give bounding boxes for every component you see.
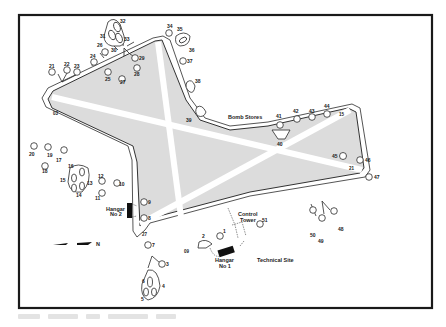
airfield-map: 03 21 15 27 09: [0, 0, 446, 327]
svg-text:9: 9: [148, 199, 151, 205]
svg-text:51: 51: [262, 217, 268, 223]
hangar-no-1: [217, 246, 234, 258]
svg-text:14: 14: [76, 192, 82, 198]
hangar-no-2: [127, 203, 132, 218]
svg-text:32: 32: [120, 18, 126, 24]
svg-text:4: 4: [162, 283, 165, 289]
svg-text:12: 12: [98, 173, 104, 179]
svg-text:2: 2: [202, 233, 205, 239]
svg-text:10: 10: [119, 181, 125, 187]
svg-text:22: 22: [64, 61, 70, 67]
svg-text:29: 29: [139, 55, 145, 61]
svg-text:48: 48: [338, 226, 344, 232]
svg-text:1: 1: [223, 228, 226, 234]
svg-text:45: 45: [332, 153, 338, 159]
runway-end-09: 09: [184, 249, 190, 254]
svg-text:40: 40: [277, 141, 283, 147]
svg-text:43: 43: [309, 108, 315, 114]
runway-end-27: 27: [142, 232, 148, 237]
north-arrow-label: N: [96, 241, 100, 247]
figure-caption-illegible: [18, 314, 176, 320]
north-arrow-icon: N: [53, 241, 100, 247]
svg-text:38: 38: [195, 78, 201, 84]
dispersal-group-south-east: [257, 201, 338, 227]
svg-text:11: 11: [95, 195, 101, 201]
hangar-no-1-label-2: No 1: [219, 263, 231, 269]
control-tower-label-2: Tower: [240, 217, 257, 223]
svg-text:23: 23: [74, 63, 80, 69]
svg-text:7: 7: [152, 242, 155, 248]
technical-site-label: Technical Site: [257, 257, 294, 263]
svg-text:42: 42: [293, 108, 299, 114]
svg-text:35: 35: [177, 26, 183, 32]
svg-text:47: 47: [374, 174, 380, 180]
svg-text:46: 46: [365, 157, 371, 163]
svg-text:26: 26: [97, 42, 103, 48]
runway-end-15: 15: [339, 112, 345, 117]
svg-text:34: 34: [167, 23, 173, 29]
bomb-stores-label: Bomb Stores: [228, 114, 262, 120]
dispersal-group-west: [31, 143, 152, 249]
svg-text:17: 17: [56, 157, 62, 163]
runway-end-03: 03: [53, 111, 59, 116]
svg-text:5: 5: [141, 296, 144, 302]
svg-text:19: 19: [47, 152, 53, 158]
svg-text:31: 31: [100, 33, 106, 39]
svg-text:25: 25: [105, 76, 111, 82]
svg-text:3: 3: [166, 261, 169, 267]
svg-text:49: 49: [318, 238, 324, 244]
svg-text:21: 21: [49, 63, 55, 69]
svg-text:28: 28: [134, 71, 140, 77]
svg-text:30: 30: [111, 47, 117, 53]
svg-text:39: 39: [186, 117, 192, 123]
svg-text:20: 20: [29, 151, 35, 157]
svg-text:33: 33: [124, 36, 130, 42]
runway-end-21: 21: [349, 166, 355, 171]
svg-text:44: 44: [324, 103, 330, 109]
svg-text:37: 37: [187, 58, 193, 64]
svg-text:41: 41: [276, 113, 282, 119]
svg-text:50: 50: [310, 232, 316, 238]
hangar-no-2-label-2: No 2: [110, 211, 122, 217]
svg-text:36: 36: [189, 47, 195, 53]
svg-text:15: 15: [60, 177, 66, 183]
svg-text:16: 16: [68, 163, 74, 169]
svg-text:18: 18: [42, 168, 48, 174]
svg-text:24: 24: [90, 53, 96, 59]
svg-text:27: 27: [120, 79, 126, 85]
svg-text:8: 8: [148, 215, 151, 221]
svg-text:6: 6: [142, 278, 145, 284]
svg-text:13: 13: [87, 180, 93, 186]
